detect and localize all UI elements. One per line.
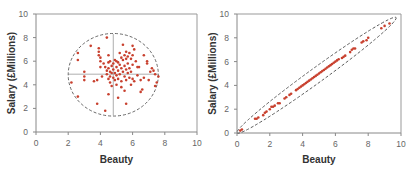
y-axis-title: Salary (£Millions) <box>207 32 218 114</box>
data-point <box>126 72 129 75</box>
data-point <box>120 67 123 70</box>
data-point <box>122 43 125 46</box>
data-point <box>367 37 370 40</box>
data-point <box>114 72 117 75</box>
data-point <box>128 67 131 70</box>
data-point <box>97 54 100 57</box>
data-point <box>112 76 115 79</box>
data-point <box>110 72 113 75</box>
x-tick-label: 0 <box>34 138 39 148</box>
x-tick-label: 2 <box>66 138 71 148</box>
y-axis-title: Salary (£Millions) <box>6 32 17 114</box>
data-point <box>138 66 141 69</box>
y-tick-label: 6 <box>224 57 229 67</box>
data-point <box>155 81 158 84</box>
data-point <box>388 22 391 25</box>
data-point <box>120 80 123 83</box>
x-tick-label: 10 <box>192 138 202 148</box>
data-point <box>354 47 357 50</box>
data-point <box>93 80 96 83</box>
data-point <box>83 75 86 78</box>
y-tick-label: 4 <box>23 80 28 90</box>
data-point <box>131 63 134 66</box>
data-point <box>117 96 120 99</box>
data-point <box>97 47 100 50</box>
data-point <box>154 73 157 76</box>
data-point <box>118 63 121 66</box>
data-point <box>146 60 149 63</box>
data-point <box>120 56 123 59</box>
data-point <box>128 52 131 55</box>
data-point <box>106 69 109 72</box>
data-point <box>83 71 86 74</box>
data-point <box>115 66 118 69</box>
data-point <box>107 93 110 96</box>
data-point <box>77 52 80 55</box>
x-axis-title: Beauty <box>302 154 336 165</box>
data-point <box>115 84 118 87</box>
x-tick-label: 8 <box>366 139 371 149</box>
data-point <box>125 102 128 105</box>
data-point <box>131 54 134 57</box>
y-tick-label: 6 <box>23 56 28 66</box>
data-point <box>154 85 157 88</box>
y-tick-label: 10 <box>19 9 29 19</box>
data-point <box>109 81 112 84</box>
data-point <box>383 25 386 28</box>
data-point <box>114 79 117 82</box>
data-point <box>104 109 107 112</box>
data-point <box>70 81 73 84</box>
data-point <box>99 56 102 59</box>
x-tick-label: 4 <box>98 138 103 148</box>
data-point <box>99 60 102 63</box>
x-tick-label: 10 <box>396 139 406 149</box>
data-point <box>126 55 129 58</box>
data-point <box>123 75 126 78</box>
data-point <box>349 51 352 54</box>
data-point <box>104 66 107 69</box>
y-tick-label: 2 <box>224 104 229 114</box>
data-point <box>106 36 109 39</box>
data-point <box>131 78 134 81</box>
y-tick-label: 8 <box>23 33 28 43</box>
data-point <box>97 50 100 53</box>
data-point <box>143 54 146 57</box>
x-tick-label: 6 <box>333 139 338 149</box>
y-tick-label: 10 <box>220 9 230 19</box>
data-point <box>278 102 281 105</box>
data-point <box>130 71 133 74</box>
data-point <box>133 80 136 83</box>
figure: 02468100246810 Beauty Salary (£Millions)… <box>0 0 412 175</box>
data-point <box>125 68 128 71</box>
data-point <box>123 89 126 92</box>
data-point <box>131 45 134 48</box>
data-point <box>117 69 120 72</box>
data-point <box>115 74 118 77</box>
plot-frame <box>36 14 197 132</box>
data-point <box>118 73 121 76</box>
data-point <box>362 40 365 43</box>
data-point <box>117 78 120 81</box>
data-point <box>130 58 133 61</box>
data-point <box>139 91 142 94</box>
data-point <box>112 62 115 65</box>
data-point <box>262 114 265 117</box>
y-tick-label: 2 <box>23 103 28 113</box>
data-point <box>110 65 113 68</box>
data-point <box>107 54 110 57</box>
data-point <box>112 68 115 71</box>
data-point <box>123 65 126 68</box>
data-point <box>109 75 112 78</box>
y-tick-label: 4 <box>224 80 229 90</box>
y-tick-label: 0 <box>224 128 229 138</box>
data-point <box>285 96 288 99</box>
data-point <box>365 39 368 42</box>
data-point <box>135 60 138 63</box>
data-point <box>126 62 129 65</box>
data-point <box>380 27 383 30</box>
data-point <box>120 86 123 89</box>
data-point <box>110 85 113 88</box>
data-point <box>273 104 276 107</box>
data-point <box>125 79 128 82</box>
ellipse-annotation <box>68 33 158 116</box>
